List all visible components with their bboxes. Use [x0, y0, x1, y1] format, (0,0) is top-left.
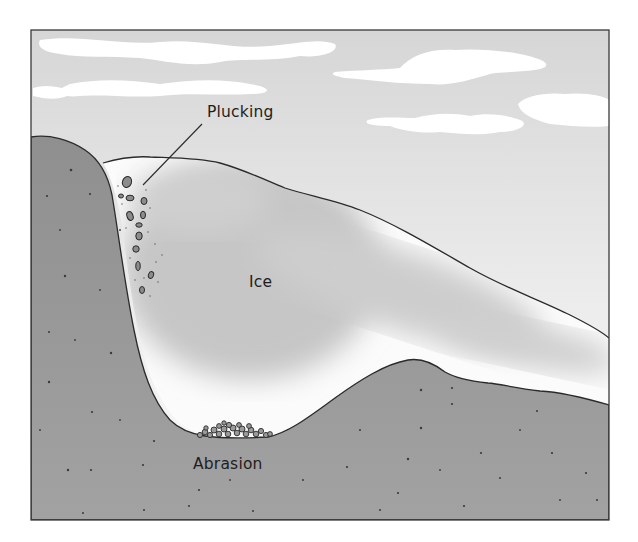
abrasion-label: Abrasion [193, 455, 263, 473]
glacial-erosion-diagram: Plucking Ice Abrasion [0, 0, 638, 542]
ice-label: Ice [249, 273, 272, 291]
plucking-label: Plucking [207, 103, 274, 121]
diagram-canvas [0, 0, 638, 542]
